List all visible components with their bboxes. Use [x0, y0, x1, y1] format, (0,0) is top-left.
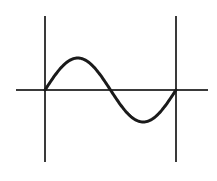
sine-wave-diagram — [0, 0, 217, 181]
